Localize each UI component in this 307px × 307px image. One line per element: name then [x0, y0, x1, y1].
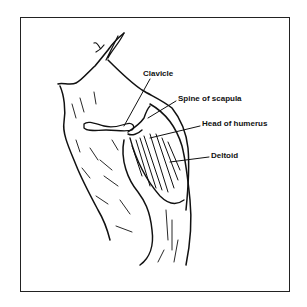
- arm-hatching: [158, 210, 178, 262]
- clavicle-bone: [84, 122, 134, 131]
- arm-outline-outer: [150, 104, 191, 265]
- label-clavicle: Clavicle: [143, 70, 173, 78]
- label-spine-of-scapula: Spine of scapula: [178, 95, 242, 103]
- torso-left-outline: [60, 86, 110, 240]
- shoulder-illustration: [0, 0, 307, 307]
- neck-outline: [58, 33, 124, 84]
- torso-hatching: [72, 92, 132, 232]
- leader-spine-of-scapula: [148, 101, 176, 118]
- label-head-of-humerus: Head of humerus: [202, 120, 267, 128]
- acromion: [128, 106, 150, 135]
- label-deltoid: Deltoid: [211, 152, 238, 160]
